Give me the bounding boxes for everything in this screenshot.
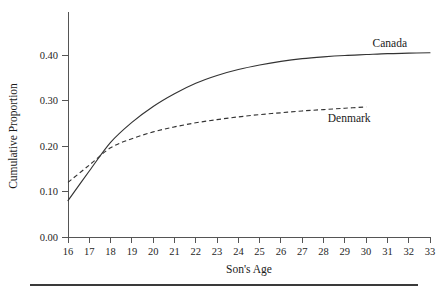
x-tick-label: 16: [63, 246, 74, 257]
data-series-group: [68, 53, 430, 201]
chart-figure: 0.00 0.10 0.20 0.30 0.40 Cumulative Prop…: [0, 0, 448, 293]
x-tick-label: 26: [276, 246, 287, 257]
x-tick-label: 31: [382, 246, 393, 257]
x-tick-label: 27: [297, 246, 308, 257]
y-axis-tick-labels: 0.00 0.10 0.20 0.30 0.40: [40, 50, 58, 243]
y-axis-ticks: [62, 55, 68, 237]
x-axis: 16 17 18 19 20 21 22 23 24 25 26 27 28 2…: [63, 237, 436, 276]
x-axis-title: Son's Age: [226, 263, 272, 276]
y-tick-label: 0.40: [40, 50, 58, 61]
x-tick-label: 24: [233, 246, 244, 257]
y-tick-label: 0.10: [40, 186, 58, 197]
x-tick-label: 25: [254, 246, 265, 257]
series-label-canada: Canada: [373, 37, 407, 49]
x-tick-label: 28: [318, 246, 329, 257]
x-tick-label: 29: [340, 246, 351, 257]
y-tick-label: 0.30: [40, 95, 58, 106]
x-tick-label: 22: [191, 246, 202, 257]
series-line-canada: [68, 53, 430, 201]
x-tick-label: 32: [403, 246, 414, 257]
x-axis-ticks: [68, 237, 430, 243]
x-tick-label: 17: [84, 246, 95, 257]
x-tick-label: 19: [127, 246, 138, 257]
y-axis-title: Cumulative Proportion: [7, 83, 20, 189]
x-tick-label: 23: [212, 246, 223, 257]
series-labels: Canada Denmark: [328, 37, 407, 125]
x-tick-label: 20: [148, 246, 159, 257]
y-tick-label: 0.20: [40, 141, 58, 152]
y-tick-label: 0.00: [40, 232, 58, 243]
series-label-denmark: Denmark: [328, 112, 371, 124]
x-tick-label: 18: [105, 246, 116, 257]
x-tick-label: 30: [361, 246, 372, 257]
y-axis: 0.00 0.10 0.20 0.30 0.40 Cumulative Prop…: [7, 12, 68, 243]
x-tick-label: 21: [169, 246, 180, 257]
line-chart: 0.00 0.10 0.20 0.30 0.40 Cumulative Prop…: [0, 0, 448, 293]
x-axis-tick-labels: 16 17 18 19 20 21 22 23 24 25 26 27 28 2…: [63, 246, 436, 257]
series-line-denmark: [68, 107, 366, 183]
x-tick-label: 33: [425, 246, 436, 257]
